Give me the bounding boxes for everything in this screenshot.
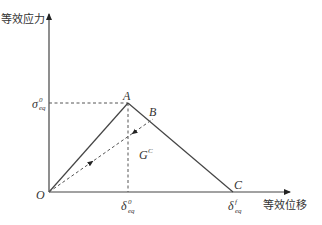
x-axis-label: 等效位移 (263, 198, 307, 212)
svg-text:σ: σ (32, 97, 39, 111)
diagram-svg: 等效应力 等效位移 O A B C σ 0 eq δ 0 eq δ f eq G… (0, 0, 322, 225)
point-A-label: A (122, 89, 131, 103)
svg-text:f: f (235, 198, 238, 206)
fracture-energy-label: G C (139, 147, 153, 162)
svg-text:0: 0 (39, 96, 43, 104)
origin-label: O (36, 188, 45, 202)
svg-text:eq: eq (235, 207, 242, 215)
point-B-label: B (149, 105, 157, 119)
cohesive-law-diagram: 等效应力 等效位移 O A B C σ 0 eq δ 0 eq δ f eq G… (0, 0, 322, 225)
svg-text:eq: eq (39, 104, 46, 112)
svg-text:C: C (148, 147, 153, 155)
svg-text:δ: δ (121, 199, 127, 213)
svg-text:δ: δ (228, 199, 234, 213)
deltaf-eq-label: δ f eq (228, 198, 242, 215)
delta0-eq-label: δ 0 eq (121, 198, 135, 215)
sigma0-eq-label: σ 0 eq (32, 96, 46, 112)
svg-text:eq: eq (128, 207, 135, 215)
point-C-label: C (234, 178, 243, 192)
y-axis-label: 等效应力 (1, 12, 45, 26)
loading-branch-OA (49, 103, 128, 192)
svg-text:G: G (139, 148, 148, 162)
unload-reload-dashed-OB (49, 119, 153, 192)
svg-text:0: 0 (128, 198, 132, 206)
